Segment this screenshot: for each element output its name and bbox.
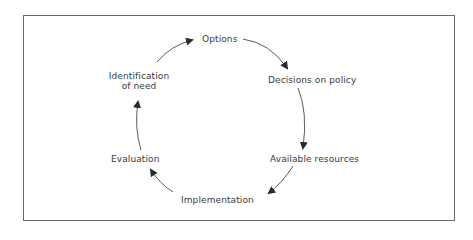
node-identification-line1: Identification — [105, 71, 173, 81]
node-available-resources: Available resources — [270, 154, 359, 164]
arrow-decisions-to-resources — [298, 88, 305, 148]
node-identification-of-need: Identification of need — [105, 71, 173, 91]
node-options: Options — [202, 34, 237, 44]
arrow-implementation-to-evaluation — [151, 170, 173, 192]
node-implementation: Implementation — [181, 195, 254, 205]
arrow-identification-to-options — [157, 40, 192, 62]
arrow-resources-to-implementation — [269, 166, 293, 193]
arrow-options-to-decisions — [243, 39, 287, 68]
node-evaluation: Evaluation — [111, 154, 160, 164]
node-identification-line2: of need — [105, 81, 173, 91]
arrow-evaluation-to-identification — [137, 102, 141, 150]
node-decisions-on-policy: Decisions on policy — [268, 75, 356, 85]
